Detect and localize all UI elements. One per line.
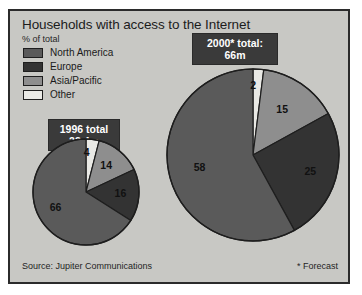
forecast-note: * Forecast: [297, 261, 338, 271]
pie-slice-label: 15: [276, 103, 288, 115]
callout-2000-total: 2000* total: 66m: [192, 33, 278, 65]
legend-swatch-asia-pacific: [23, 76, 43, 86]
legend-label-asia-pacific: Asia/Pacific: [50, 75, 102, 86]
pie-slice-label: 4: [84, 146, 90, 158]
legend-label-europe: Europe: [50, 61, 82, 72]
legend-swatch-other: [23, 90, 43, 100]
pie-slice-label: 16: [115, 187, 127, 199]
pie-slice-label: 2: [250, 79, 256, 91]
legend-swatch-north-america: [23, 48, 43, 58]
pie-slice-label: 14: [100, 159, 112, 171]
chart-subtitle: % of total: [22, 34, 60, 44]
pie-chart-2000: [166, 68, 340, 242]
legend-label-north-america: North America: [50, 47, 113, 58]
legend-label-other: Other: [50, 89, 75, 100]
page-title: Households with access to the Internet: [22, 17, 250, 32]
source-note: Source: Jupiter Communications: [22, 261, 152, 271]
pie-slice-label: 66: [50, 201, 62, 213]
callout-1996-line1: 1996 total: [55, 123, 113, 135]
callout-2000-line2: 66m: [199, 49, 271, 61]
legend-swatch-europe: [23, 62, 43, 72]
callout-2000-line1: 2000* total:: [199, 37, 271, 49]
pie-slice-label: 25: [304, 165, 316, 177]
chart-panel: Households with access to the Internet %…: [8, 9, 350, 284]
pie-slice-label: 58: [194, 161, 206, 173]
